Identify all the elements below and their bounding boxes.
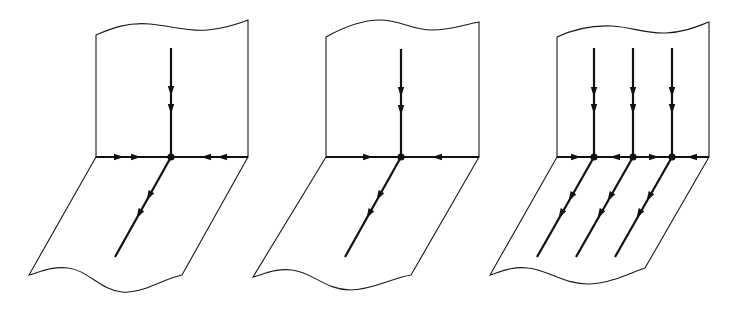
arrow-left-icon [217, 154, 227, 160]
arrow-left-icon [432, 154, 442, 160]
panel-1 [29, 20, 248, 292]
arrow-down-icon [398, 105, 404, 115]
lower-plane [490, 157, 709, 284]
diagram-figure [0, 0, 730, 315]
arrow-down-icon [591, 87, 597, 97]
arrow-right-icon [571, 154, 581, 160]
lower-plane [29, 157, 248, 292]
junction-node [590, 153, 597, 160]
arrow-down-icon [669, 104, 675, 114]
arrow-down-icon [630, 104, 636, 114]
diagonal-flow-line [115, 157, 171, 257]
arrow-right-icon [649, 154, 659, 160]
arrow-left-icon [201, 154, 211, 160]
arrow-down-icon [168, 104, 174, 114]
arrow-down-icon [669, 87, 675, 97]
diagonal-flow-line [345, 157, 401, 257]
panel-3 [490, 22, 709, 284]
arrow-down-icon [630, 87, 636, 97]
junction-node [668, 153, 675, 160]
arrow-down-icon [591, 104, 597, 114]
arrow-left-icon [687, 154, 697, 160]
junction-node [397, 153, 404, 160]
arrow-down-icon [168, 86, 174, 96]
junction-node [629, 153, 636, 160]
panel-2 [253, 20, 479, 290]
junction-node [167, 153, 174, 160]
arrow-left-icon [610, 154, 620, 160]
arrow-down-icon [398, 87, 404, 97]
arrow-right-icon [131, 154, 141, 160]
arrow-right-icon [363, 154, 373, 160]
arrow-right-icon [114, 154, 124, 160]
lower-plane [253, 157, 479, 290]
